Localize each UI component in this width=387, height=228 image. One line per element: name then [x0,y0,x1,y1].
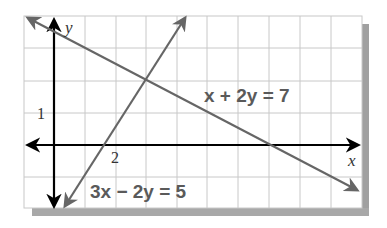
x-tick-label-2: 2 [111,149,119,166]
graph-frame [24,16,362,208]
coordinate-graph: y x 1 2 x + 2y = 7 3x − 2y = 5 [0,0,387,228]
y-tick-label-1: 1 [37,105,45,122]
frame-shadow-bottom [32,208,369,216]
x-axis-label: x [347,151,356,170]
y-axis-label: y [63,18,73,37]
equation-label-2: 3x − 2y = 5 [90,181,187,202]
equation-label-1: x + 2y = 7 [204,85,290,106]
frame-shadow-right [362,24,369,216]
